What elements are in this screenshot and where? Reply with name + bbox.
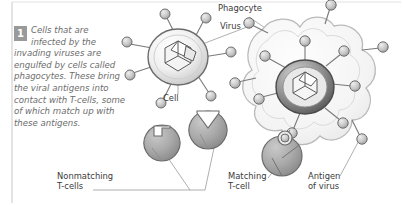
leader-nonmatching-b <box>205 148 214 190</box>
label-antigen-of-virus: Antigen of virus <box>308 171 340 191</box>
phagocyte <box>230 0 388 145</box>
label-cell: Cell <box>163 93 179 103</box>
label-matching-tcell: Matching T-cell <box>228 171 267 191</box>
immune-response-figure: 1 Cells that are infected by the invadin… <box>0 0 403 205</box>
leader-nonmatching-a <box>168 158 190 190</box>
step-number-badge: 1 <box>14 26 27 41</box>
docked-antigen <box>281 134 289 142</box>
caption-block: 1 Cells that are infected by the invadin… <box>14 25 126 129</box>
nonmatching-tcell-a <box>144 125 180 161</box>
antigen-of-virus-pin <box>357 134 367 144</box>
caption-text: Cells that are infected by the invading … <box>14 25 126 129</box>
infected-cell-left <box>122 9 236 108</box>
label-virus: Virus <box>220 21 241 31</box>
nonmatching-tcell-b <box>189 111 227 149</box>
label-nonmatching-tcells: Nonmatching T-cells <box>57 171 113 191</box>
label-phagocyte: Phagocyte <box>218 3 262 13</box>
